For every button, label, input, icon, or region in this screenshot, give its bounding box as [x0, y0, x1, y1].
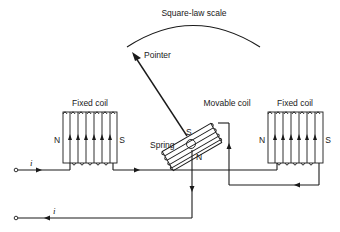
- right-fixed-coil: Fixed coil N S: [259, 98, 331, 165]
- left-fixed-coil: Fixed coil N S: [54, 98, 125, 165]
- pointer-arrowhead-icon: [132, 52, 141, 61]
- scale-arc: [127, 26, 260, 48]
- current-in-label: i: [30, 158, 33, 168]
- right-coil-south: S: [325, 135, 331, 145]
- scale-label: Square-law scale: [161, 8, 226, 18]
- movable-coil-south: S: [186, 127, 192, 137]
- left-coil-south: S: [119, 135, 125, 145]
- current-out-label: i: [53, 206, 56, 216]
- right-coil-label: Fixed coil: [277, 98, 313, 108]
- spring-label: Spring: [150, 140, 175, 150]
- movable-coil: Movable coil Spring S N: [150, 98, 251, 171]
- movable-coil-north: N: [196, 152, 202, 162]
- input-arrow-icon: [36, 168, 42, 173]
- left-coil-north: N: [54, 135, 60, 145]
- movable-coil-label: Movable coil: [203, 98, 250, 108]
- left-coil-turns: [68, 112, 112, 163]
- right-coil-turns: [273, 112, 317, 163]
- pointer: Pointer: [132, 50, 187, 136]
- output-arrow-icon: [44, 216, 50, 221]
- electrodynamometer-diagram: Square-law scale Pointer Fixed coil N S …: [0, 0, 340, 232]
- input-terminal: [14, 168, 18, 172]
- left-coil-label: Fixed coil: [72, 98, 108, 108]
- square-law-scale: Square-law scale: [127, 8, 260, 47]
- pointer-needle: [134, 55, 187, 136]
- pointer-label: Pointer: [144, 50, 171, 60]
- output-terminal: [14, 216, 18, 220]
- right-coil-north: N: [259, 135, 265, 145]
